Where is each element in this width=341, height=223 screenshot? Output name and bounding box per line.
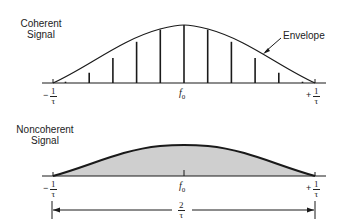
- coherent-title-line2: Signal: [18, 29, 64, 40]
- noncoherent-left-label: − 1 τ: [50, 180, 57, 199]
- noncoherent-title-line1: Noncoherent: [15, 124, 75, 135]
- noncoherent-center-label: f0: [179, 180, 185, 194]
- coherent-left-label: − 1 τ: [50, 87, 57, 106]
- coherent-title: Coherent Signal: [18, 18, 64, 40]
- noncoherent-title-line2: Signal: [15, 135, 75, 146]
- coherent-right-label: + 1 τ: [313, 87, 320, 106]
- spectral-lines: [66, 25, 303, 83]
- dimension-left-arrow-icon: [53, 208, 60, 213]
- noncoherent-right-label: + 1 τ: [313, 180, 320, 199]
- coherent-center-label: f0: [179, 87, 185, 101]
- dimension-right-arrow-icon: [307, 208, 314, 213]
- coherent-title-line1: Coherent: [18, 18, 64, 29]
- envelope-label: Envelope: [283, 30, 325, 41]
- bandwidth-label: 2 τ: [178, 201, 185, 220]
- noncoherent-title: Noncoherent Signal: [15, 124, 75, 146]
